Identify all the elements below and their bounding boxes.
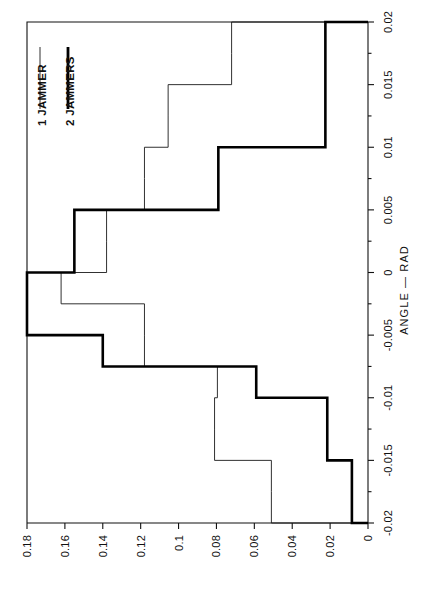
angle-axis-ticklabels: 0.020.0150.010.0050-0.005-0.01-0.015-0.0… <box>382 11 394 536</box>
value-ticklabel: 0.04 <box>286 535 298 557</box>
angle-ticklabel: 0.015 <box>382 70 394 99</box>
angle-ticklabel: 0 <box>382 269 394 275</box>
angle-ticklabel: -0.005 <box>382 319 394 351</box>
value-ticklabel: 0.16 <box>59 535 71 557</box>
value-ticklabel: 0.18 <box>21 535 33 557</box>
chart-figure: 0.020.0150.010.0050-0.005-0.01-0.015-0.0… <box>0 0 424 598</box>
legend-label-2-jammers: 2 JAMMERS <box>64 56 76 126</box>
angle-ticklabel: 0.005 <box>382 196 394 225</box>
value-ticklabel: 0.08 <box>210 535 222 557</box>
angle-ticklabel: 0.01 <box>382 136 394 158</box>
value-ticklabel: 0 <box>362 535 374 541</box>
angle-ticklabel: 0.02 <box>382 11 394 33</box>
value-ticklabel: 0.12 <box>135 535 147 557</box>
value-ticklabel: 0.02 <box>324 535 336 557</box>
x-axis-title: ANGLE — RAD <box>398 245 410 335</box>
histogram-chart: 0.020.0150.010.0050-0.005-0.01-0.015-0.0… <box>0 0 424 598</box>
angle-ticklabel: -0.02 <box>382 510 394 536</box>
angle-ticklabel: -0.015 <box>382 444 394 476</box>
value-ticklabel: 0.1 <box>173 535 185 551</box>
value-ticklabel: 0.06 <box>248 535 260 557</box>
legend-label-1-jammer: 1 JAMMER <box>36 64 48 126</box>
value-ticklabel: 0.14 <box>97 535 109 557</box>
angle-ticklabel: -0.01 <box>382 385 394 411</box>
